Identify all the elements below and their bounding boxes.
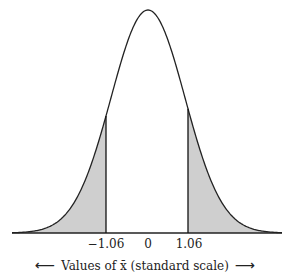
right-arrow-icon: ⟶ bbox=[235, 257, 255, 273]
right-tail-shaded-region bbox=[188, 109, 282, 233]
x-axis-label-row: ⟵Values of x̄ (standard scale)⟶ bbox=[0, 257, 290, 273]
tick-label-1.06: 1.06 bbox=[176, 237, 203, 251]
left-tail-shaded-region bbox=[12, 116, 106, 233]
normal-curve bbox=[12, 10, 282, 233]
left-arrow-icon: ⟵ bbox=[35, 257, 55, 273]
tick-label-neg-1.06: −1.06 bbox=[88, 237, 125, 251]
tick-label-0: 0 bbox=[144, 237, 152, 251]
x-axis-label: Values of x̄ (standard scale) bbox=[61, 259, 229, 273]
